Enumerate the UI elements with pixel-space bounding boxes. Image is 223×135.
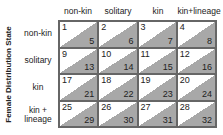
- column-header-solitary: solitary: [98, 5, 138, 18]
- matrix-cell: 2024: [177, 74, 216, 101]
- cell-top-number: 9: [62, 49, 67, 59]
- y-axis-label-text: Female Distribution State: [4, 26, 13, 122]
- matrix-cell: 1014: [98, 48, 137, 75]
- cell-top-number: 12: [180, 49, 190, 59]
- matrix-cell: 1115: [138, 48, 177, 75]
- cell-top-number: 17: [62, 75, 72, 85]
- matrix-cell: 1923: [138, 74, 177, 101]
- cell-bottom-number: 8: [207, 36, 212, 46]
- matrix-cell: 37: [138, 21, 177, 48]
- cell-bottom-number: 22: [123, 89, 133, 99]
- cell-bottom-number: 15: [163, 62, 173, 72]
- matrix-cell: 2630: [98, 101, 137, 128]
- state-matrix: 15 26 37 48 913 1014 1115 1216 1721 1822…: [58, 20, 217, 128]
- cell-top-number: 27: [141, 102, 151, 112]
- cell-bottom-number: 29: [84, 115, 94, 125]
- cell-top-number: 4: [180, 22, 185, 32]
- matrix-cell: 26: [98, 21, 137, 48]
- cell-bottom-number: 31: [163, 115, 173, 125]
- matrix-cell: 15: [59, 21, 98, 48]
- row-header-non-kin: non-kin: [20, 20, 56, 47]
- cell-top-number: 10: [101, 49, 111, 59]
- cell-top-number: 20: [180, 75, 190, 85]
- cell-top-number: 11: [141, 49, 150, 59]
- column-header-kin-lineage: kin+lineage: [175, 5, 223, 18]
- cell-bottom-number: 5: [89, 36, 94, 46]
- matrix-cell: 2731: [138, 101, 177, 128]
- matrix-cell: 1822: [98, 74, 137, 101]
- cell-top-number: 18: [101, 75, 111, 85]
- matrix-cell: 2529: [59, 101, 98, 128]
- row-header-solitary: solitary: [20, 47, 56, 74]
- cell-bottom-number: 7: [168, 36, 173, 46]
- column-header-kin: kin: [138, 5, 178, 18]
- cell-bottom-number: 23: [163, 89, 173, 99]
- cell-top-number: 28: [180, 102, 190, 112]
- cell-top-number: 3: [141, 22, 146, 32]
- cell-bottom-number: 30: [123, 115, 133, 125]
- cell-top-number: 1: [62, 22, 67, 32]
- cell-top-number: 19: [141, 75, 151, 85]
- column-header-non-kin: non-kin: [58, 5, 98, 18]
- cell-bottom-number: 24: [202, 89, 212, 99]
- cell-bottom-number: 16: [202, 62, 212, 72]
- matrix-cell: 48: [177, 21, 216, 48]
- y-axis-label: Female Distribution State: [1, 20, 15, 128]
- matrix-cell: 1721: [59, 74, 98, 101]
- cell-top-number: 25: [62, 102, 72, 112]
- row-header-kin-lineage: kin + lineage: [23, 101, 53, 128]
- cell-top-number: 2: [101, 22, 106, 32]
- cell-bottom-number: 13: [84, 62, 94, 72]
- cell-bottom-number: 21: [84, 89, 94, 99]
- row-header-kin: kin: [20, 74, 56, 101]
- matrix-cell: 913: [59, 48, 98, 75]
- cell-bottom-number: 32: [202, 115, 212, 125]
- matrix-cell: 1216: [177, 48, 216, 75]
- matrix-cell: 2832: [177, 101, 216, 128]
- cell-top-number: 26: [101, 102, 111, 112]
- cell-bottom-number: 6: [128, 36, 133, 46]
- cell-bottom-number: 14: [123, 62, 133, 72]
